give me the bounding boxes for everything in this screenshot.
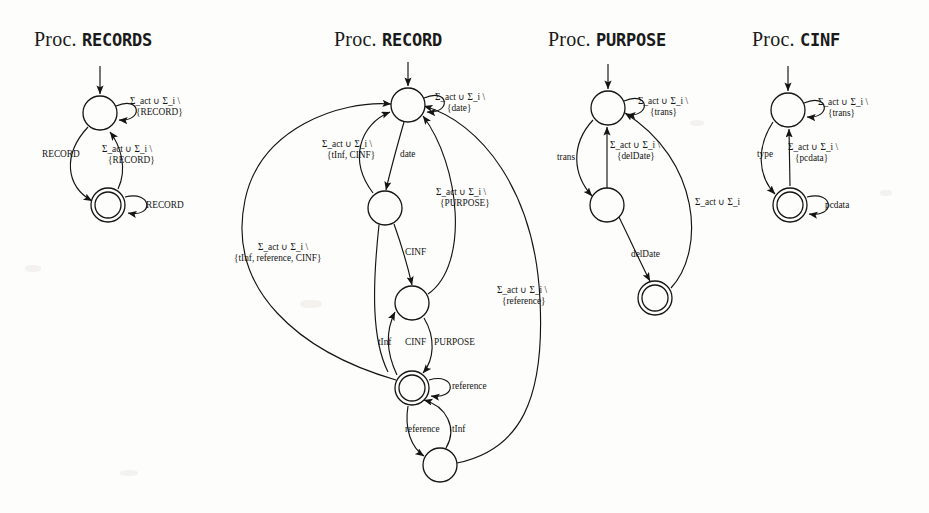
transition-label: reference [405,424,440,434]
state-node [395,286,429,320]
transition-label: Σ_act ∪ Σ_i [695,197,741,207]
transition-label: Σ_act ∪ Σ_i \ [130,96,181,106]
edge-cinf-c1-c0-sigma [789,129,790,186]
automata-svg: Σ_act ∪ Σ_i \{RECORD}RECORDΣ_act ∪ Σ_i \… [0,0,929,513]
transition-label: Σ_act ∪ Σ_i \ [435,92,486,102]
state-node [368,191,402,225]
transition-label: Σ_act ∪ Σ_i \ [258,242,309,252]
transition-label: Σ_act ∪ Σ_i \ [610,140,661,150]
transition-label: {tInf, CINF} [327,150,375,160]
transition-label: tInf [378,337,392,347]
transition-label: RECORD [42,149,80,159]
accepting-state-node [638,281,672,315]
transition-label: CINF [405,337,426,347]
transition-label: tInf [452,424,466,434]
transition-label: {trans} [650,107,677,117]
transition-label: {reference} [502,296,546,306]
transition-label: {RECORD} [108,155,155,165]
accepting-state-node [773,188,807,222]
state-node [423,448,457,482]
transition-label: Σ_act ∪ Σ_i \ [638,96,689,106]
state-nodes [83,88,807,482]
transition-label: type [757,149,773,159]
transition-label: {pcdata} [795,153,828,163]
transition-label: RECORD [146,200,184,210]
transition-edges [70,62,828,463]
transition-label: delDate [631,249,660,259]
transition-label: {delDate} [617,151,655,161]
figure-canvas: Proc. RECORDS Proc. RECORD Proc. PURPOSE… [0,0,929,513]
transition-label: CINF [405,247,426,257]
transition-label: {date} [447,103,471,113]
state-node [591,91,625,125]
transition-label: reference [452,381,487,391]
transition-label: Σ_act ∪ Σ_i \ [818,97,869,107]
edge-record-self-reference [429,379,450,397]
transition-label: Σ_act ∪ Σ_i \ [497,285,548,295]
edge-records-r0-r1-record [70,127,92,201]
edge-record-d1-d3-link [375,225,388,372]
transition-label: Σ_act ∪ Σ_i \ [436,187,487,197]
transition-label: PURPOSE [434,337,475,347]
transition-label: Σ_act ∪ Σ_i \ [322,139,373,149]
transition-labels: Σ_act ∪ Σ_i \{RECORD}RECORDΣ_act ∪ Σ_i \… [42,92,869,434]
transition-label: Σ_act ∪ Σ_i \ [102,144,153,154]
accepting-state-node [91,188,125,222]
state-node [83,96,117,130]
state-node [590,188,624,222]
transition-label: pcdata [825,200,849,210]
transition-label: {tInf, reference, CINF} [234,253,321,263]
edge-records-self-record [125,196,147,214]
state-node [391,88,425,122]
transition-label: Σ_act ∪ Σ_i \ [788,142,839,152]
transition-label: {RECORD} [136,107,183,117]
accepting-state-node [395,371,429,405]
state-node [771,93,805,127]
transition-label: trans [557,152,575,162]
transition-label: {PURPOSE} [440,198,490,208]
transition-label: date [400,149,415,159]
edge-purpose-p0-p1-trans [577,120,593,196]
transition-label: {trans} [828,108,855,118]
